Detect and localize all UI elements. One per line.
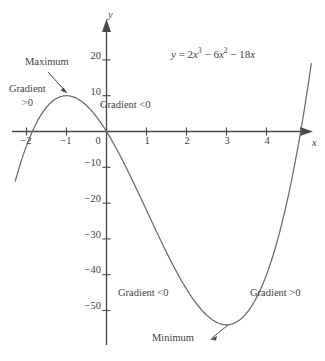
x-axis-label: x [312,138,317,149]
minimum-annotation: Minimum [152,333,194,344]
function-graph-figure: −2 −1 0 1 2 3 4 20 10 −10 −20 −30 −40 −5… [0,0,325,361]
minimum-leader-line [212,325,228,338]
x-tick-label--1: −1 [60,136,71,147]
y-tick-label--10: −10 [85,158,101,169]
graph-canvas [0,0,325,361]
y-tick-label--30: −30 [85,230,101,241]
y-tick-label--40: −40 [85,265,101,276]
equation-term3-var: x [250,48,255,60]
gradient-positive-right-annotation: Gradient >0 [250,288,301,299]
maximum-pointer [48,72,68,94]
y-axis-arrowhead [102,19,111,32]
equation-term3-coef: 18 [239,48,250,60]
cubic-curve [15,64,311,325]
y-tick-label-10: 10 [91,87,102,98]
y-axis-label: y [108,10,113,21]
x-tick-label-0: 0 [95,136,100,147]
x-tick-label-1: 1 [144,136,149,147]
maximum-arrowhead [61,88,68,94]
x-axis-arrowhead [300,127,313,136]
maximum-annotation: Maximum [25,57,69,68]
gradient-negative-bottom-annotation: Gradient <0 [118,288,169,299]
gradient-positive-left-line2: >0 [9,98,46,109]
x-tick-label-3: 3 [224,136,229,147]
x-tick-label-2: 2 [184,136,189,147]
gradient-positive-left-annotation: Gradient >0 [9,84,46,108]
minimum-pointer [210,325,228,341]
gradient-negative-top-annotation: Gradient <0 [100,100,151,111]
equation-label: y = 2x3 − 6x2 − 18x [171,49,255,60]
y-tick-label--50: −50 [85,301,101,312]
x-tick-label--2: −2 [20,136,31,147]
y-tick-label-20: 20 [91,51,102,62]
y-axis [102,19,111,345]
gradient-positive-left-line1: Gradient [9,84,46,95]
y-tick-label--20: −20 [85,194,101,205]
x-tick-label-4: 4 [264,136,269,147]
